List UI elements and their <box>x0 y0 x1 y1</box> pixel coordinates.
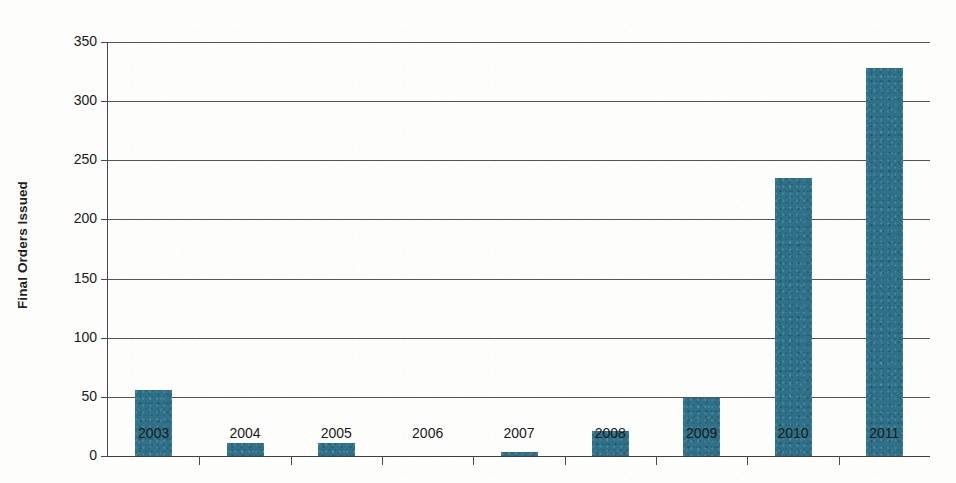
x-tick-label-2005: 2005 <box>291 426 382 440</box>
y-tick-mark <box>101 219 108 220</box>
y-tick-mark <box>101 101 108 102</box>
plot-area <box>108 42 930 456</box>
x-tick-label-2011: 2011 <box>839 426 930 440</box>
x-tick-mark <box>565 456 566 465</box>
y-axis-title-label: Final Orders Issued <box>15 181 30 309</box>
y-tick-label: 150 <box>51 271 97 285</box>
bar-2011 <box>866 68 903 456</box>
y-tick-mark <box>101 397 108 398</box>
y-tick-mark <box>101 338 108 339</box>
y-tick-mark <box>101 279 108 280</box>
x-tick-mark <box>656 456 657 465</box>
x-tick-label-2009: 2009 <box>656 426 747 440</box>
chart-title <box>0 0 956 6</box>
x-tick-mark <box>473 456 474 465</box>
y-tick-label: 300 <box>51 93 97 107</box>
y-tick-label: 250 <box>51 152 97 166</box>
bar-2005 <box>318 443 355 456</box>
y-tick-mark <box>101 42 108 43</box>
y-tick-label: 50 <box>51 389 97 403</box>
y-tick-label: 0 <box>51 448 97 462</box>
x-tick-label-2007: 2007 <box>473 426 564 440</box>
y-tick-label: 200 <box>51 211 97 225</box>
bar-2003 <box>135 390 172 456</box>
gridline <box>108 101 930 102</box>
y-axis-line <box>107 42 108 456</box>
y-tick-label: 350 <box>51 34 97 48</box>
x-tick-label-2003: 2003 <box>108 426 199 440</box>
y-tick-label: 100 <box>51 330 97 344</box>
x-tick-mark <box>382 456 383 465</box>
y-tick-mark <box>101 456 108 457</box>
page-background: Final Orders Issued 05010015020025030035… <box>0 0 956 483</box>
x-tick-label-2004: 2004 <box>199 426 290 440</box>
x-tick-label-2008: 2008 <box>565 426 656 440</box>
bar-chart-figure: Final Orders Issued 05010015020025030035… <box>0 0 956 483</box>
bar-2004 <box>227 443 264 456</box>
x-tick-mark <box>839 456 840 465</box>
x-tick-mark <box>747 456 748 465</box>
bar-2007 <box>501 452 538 456</box>
x-tick-label-2010: 2010 <box>747 426 838 440</box>
y-axis-title: Final Orders Issued <box>10 130 34 360</box>
bar-2010 <box>775 178 812 456</box>
gridline <box>108 160 930 161</box>
x-axis-line <box>107 456 930 457</box>
x-tick-mark <box>291 456 292 465</box>
x-tick-label-2006: 2006 <box>382 426 473 440</box>
y-tick-mark <box>101 160 108 161</box>
x-tick-mark <box>199 456 200 465</box>
gridline <box>108 42 930 43</box>
